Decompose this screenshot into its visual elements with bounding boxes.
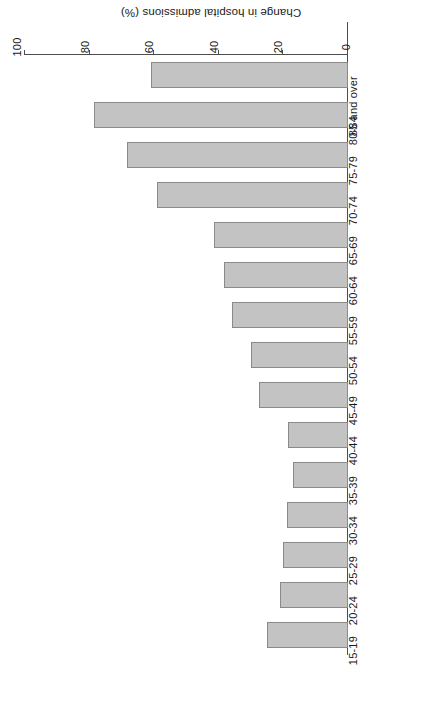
- category-label: 65-69: [347, 236, 359, 265]
- category-label: 45-49: [347, 396, 359, 425]
- x-tick-label: 40: [207, 41, 219, 54]
- x-tick-label: 60: [143, 41, 155, 54]
- x-axis-title: Change in hospital admissions (%): [0, 7, 422, 19]
- x-tick-label: 0: [340, 44, 352, 50]
- bar: [280, 582, 348, 608]
- category-label-anchor: 20-24: [353, 594, 354, 595]
- bar: [157, 182, 348, 208]
- bar: [232, 302, 348, 328]
- bar: [287, 502, 348, 528]
- bar: [224, 262, 348, 288]
- bar: [283, 542, 348, 568]
- bar: [259, 382, 348, 408]
- category-label-anchor: 60-64: [353, 274, 354, 275]
- rotated-figure-container: 020406080100 15-1920-2425-2930-3435-3940…: [0, 0, 422, 725]
- x-tick-label: 80: [78, 41, 90, 54]
- bar-chart: 020406080100 15-1920-2425-2930-3435-3940…: [0, 0, 422, 725]
- category-label: 25-29: [347, 556, 359, 585]
- category-label-anchor: 50-54: [353, 354, 354, 355]
- category-label-anchor: 40-44: [353, 434, 354, 435]
- category-label: 50-54: [347, 356, 359, 385]
- category-label-anchor: 35-39: [353, 474, 354, 475]
- category-label: 20-24: [347, 596, 359, 625]
- category-label-anchor: 25-29: [353, 554, 354, 555]
- category-label: 35-39: [347, 476, 359, 505]
- bar: [94, 102, 348, 128]
- value-axis-line: [25, 54, 348, 55]
- category-label: 60-64: [347, 276, 359, 305]
- x-tick-label: 100: [11, 38, 23, 57]
- bar: [214, 222, 348, 248]
- category-label: 30-34: [347, 516, 359, 545]
- category-label-anchor: 55-59: [353, 314, 354, 315]
- bar: [293, 462, 348, 488]
- category-label: 55-59: [347, 316, 359, 345]
- x-tick-label: 20: [272, 41, 284, 54]
- x-tick-mark: [347, 50, 348, 55]
- category-label-anchor: 15-19: [353, 634, 354, 635]
- category-label-anchor: 45-49: [353, 394, 354, 395]
- category-label: 75-79: [347, 156, 359, 185]
- category-label-anchor: 75-79: [353, 154, 354, 155]
- category-label-anchor: 70-74: [353, 194, 354, 195]
- category-label-anchor: 65-69: [353, 234, 354, 235]
- bar: [288, 422, 348, 448]
- category-label-anchor: 30-34: [353, 514, 354, 515]
- category-label: 15-19: [347, 636, 359, 665]
- category-label: 85 and over: [347, 76, 359, 136]
- bar: [151, 62, 348, 88]
- bar: [251, 342, 348, 368]
- category-label: 70-74: [347, 196, 359, 225]
- bar: [127, 142, 348, 168]
- category-label: 40-44: [347, 436, 359, 465]
- bar: [267, 622, 348, 648]
- category-label-anchor: 85 and over: [353, 74, 354, 75]
- x-tick-mark: [24, 50, 25, 55]
